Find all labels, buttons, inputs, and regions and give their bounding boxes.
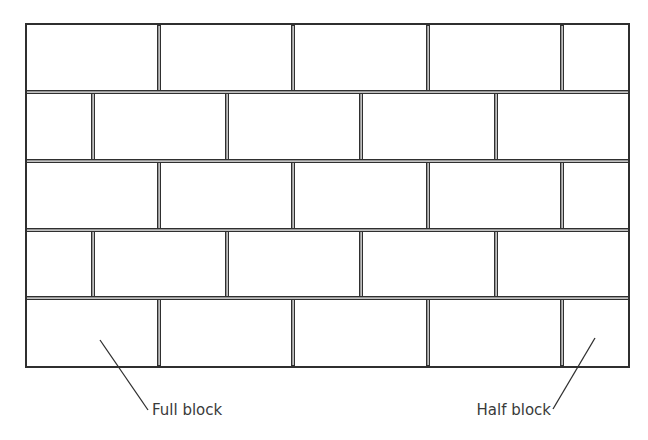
full-block-r3-c2 <box>159 161 293 230</box>
half-block-label: Half block <box>477 401 552 419</box>
full-block-r2-c5 <box>496 92 629 161</box>
full-block-r4-c2 <box>93 230 227 298</box>
perpend-joint-gap <box>562 300 563 365</box>
perpend-joint-gap <box>562 26 563 90</box>
perpend-joint-gap <box>428 163 429 228</box>
perpend-joint-gap <box>159 163 160 228</box>
perpend-joint-gap <box>428 26 429 90</box>
half-block-r1-c5 <box>562 24 629 92</box>
full-block-r1-c1 <box>26 24 159 92</box>
full-block-r5-c4 <box>428 298 562 367</box>
half-block-r3-c5 <box>562 161 629 230</box>
full-block-r4-c3 <box>227 230 361 298</box>
perpend-joint-gap <box>562 163 563 228</box>
perpend-joint-gap <box>293 26 294 90</box>
bed-joint-gap <box>27 298 628 299</box>
perpend-joint-gap <box>227 232 228 296</box>
perpend-joint-gap <box>159 26 160 90</box>
full-block-r2-c4 <box>361 92 496 161</box>
brick-wall <box>26 24 629 367</box>
half-block-r2-c1 <box>26 92 93 161</box>
perpend-joint-gap <box>227 94 228 159</box>
full-block-r5-c3 <box>293 298 428 367</box>
full-block-r3-c4 <box>428 161 562 230</box>
full-block-r2-c3 <box>227 92 361 161</box>
perpend-joint-gap <box>496 94 497 159</box>
half-block-r4-c1 <box>26 230 93 298</box>
bed-joint-gap <box>27 230 628 231</box>
full-block-r4-c4 <box>361 230 496 298</box>
full-block-r1-c4 <box>428 24 562 92</box>
bed-joint-gap <box>27 92 628 93</box>
half-block-r5-c5 <box>562 298 629 367</box>
perpend-joint-gap <box>93 232 94 296</box>
perpend-joint-gap <box>293 300 294 365</box>
full-block-r3-c1 <box>26 161 159 230</box>
full-block-r1-c3 <box>293 24 428 92</box>
perpend-joint-gap <box>93 94 94 159</box>
perpend-joint-gap <box>496 232 497 296</box>
brick-wall-diagram: Full block Half block <box>0 0 648 440</box>
full-block-r1-c2 <box>159 24 293 92</box>
perpend-joint-gap <box>361 232 362 296</box>
full-block-r2-c2 <box>93 92 227 161</box>
full-block-r5-c1 <box>26 298 159 367</box>
full-block-label: Full block <box>152 401 223 419</box>
full-block-r3-c3 <box>293 161 428 230</box>
perpend-joint-gap <box>428 300 429 365</box>
bed-joint-gap <box>27 161 628 162</box>
perpend-joint-gap <box>293 163 294 228</box>
full-block-r5-c2 <box>159 298 293 367</box>
perpend-joint-gap <box>159 300 160 365</box>
perpend-joint-gap <box>361 94 362 159</box>
full-block-r4-c5 <box>496 230 629 298</box>
